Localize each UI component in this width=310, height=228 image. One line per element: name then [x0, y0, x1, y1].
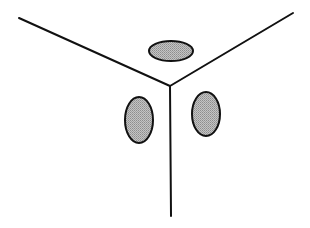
right-face-ellipse: [192, 92, 220, 136]
top-face-ellipse: [149, 41, 193, 61]
ellipses-group: [125, 41, 220, 143]
left-face-ellipse: [125, 97, 153, 143]
corner-diagram: [0, 0, 310, 228]
left-edge: [19, 18, 170, 86]
bottom-edge: [170, 86, 171, 216]
